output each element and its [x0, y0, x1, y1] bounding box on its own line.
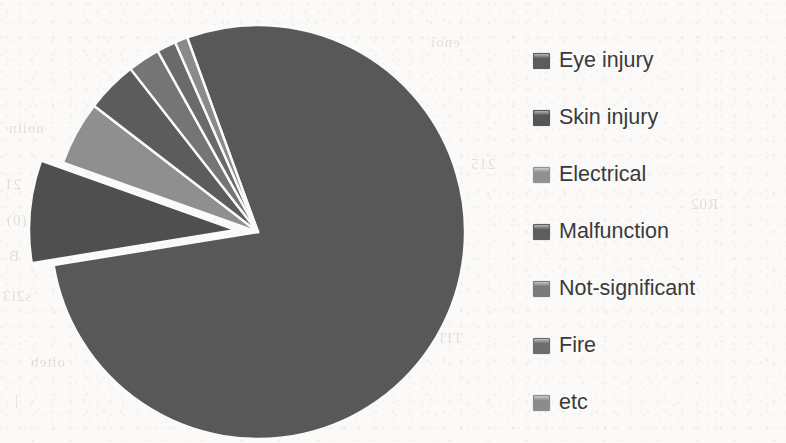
legend-swatch-skin-injury: [533, 110, 550, 126]
legend-label-not-significant: Not-significant: [559, 278, 695, 300]
legend-label-fire: Fire: [559, 335, 596, 357]
legend-item-eye-injury[interactable]: Eye injury: [533, 44, 778, 77]
legend-swatch-electrical: [533, 167, 550, 183]
chart-legend: Eye injury Skin injury Electrical Malfun…: [533, 44, 778, 419]
legend-swatch-fire: [533, 338, 550, 354]
legend-swatch-malfunction: [533, 224, 550, 240]
legend-item-not-significant[interactable]: Not-significant: [533, 272, 778, 305]
legend-item-fire[interactable]: Fire: [533, 329, 778, 362]
legend-item-electrical[interactable]: Electrical: [533, 158, 778, 191]
legend-label-etc: etc: [559, 392, 588, 414]
legend-item-malfunction[interactable]: Malfunction: [533, 215, 778, 248]
pie-slice-group: [29, 25, 465, 439]
legend-label-electrical: Electrical: [559, 164, 646, 186]
legend-label-skin-injury: Skin injury: [559, 107, 658, 129]
pie-chart-svg: [0, 0, 520, 443]
legend-item-etc[interactable]: etc: [533, 386, 778, 419]
chart-page: noitn21(0)Bs2l3oiteb|enoi215R02TITI Eye …: [0, 0, 786, 443]
legend-label-malfunction: Malfunction: [559, 221, 669, 243]
legend-label-eye-injury: Eye injury: [559, 50, 653, 72]
pie-chart: [0, 0, 520, 443]
legend-swatch-eye-injury: [533, 53, 550, 69]
legend-swatch-not-significant: [533, 281, 550, 297]
legend-item-skin-injury[interactable]: Skin injury: [533, 101, 778, 134]
legend-swatch-etc: [533, 395, 550, 411]
